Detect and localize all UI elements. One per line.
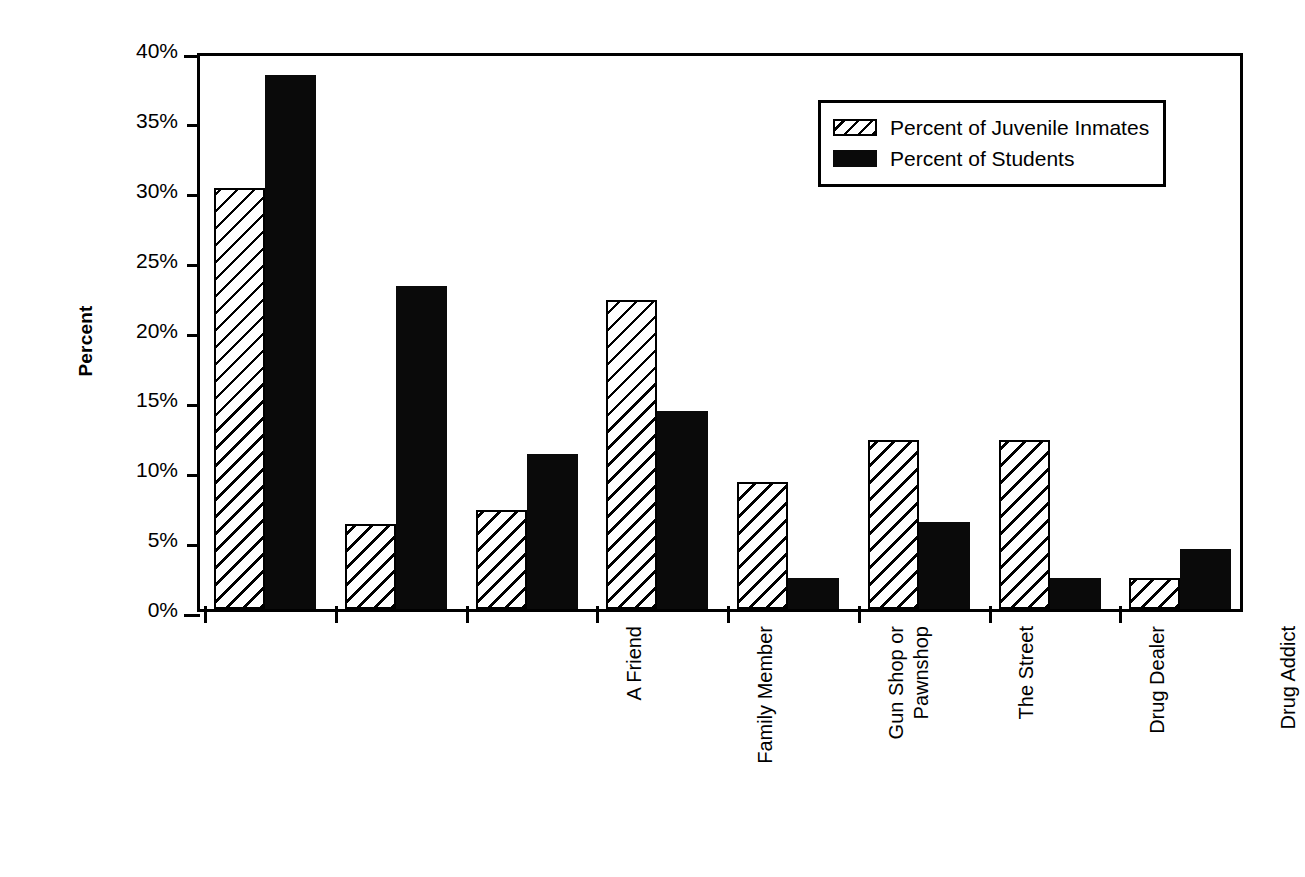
y-axis-tick xyxy=(187,194,200,197)
y-axis-tick xyxy=(184,55,200,58)
bar-inmates xyxy=(214,188,265,609)
y-axis-tick-label: 5% xyxy=(60,528,178,552)
x-axis-category-label: Gun Shop or Pawnshop xyxy=(884,626,934,866)
x-axis-tick xyxy=(727,606,730,623)
y-axis-tick xyxy=(187,124,200,127)
y-axis-tick-label: 20% xyxy=(60,319,178,343)
x-axis-tick xyxy=(466,606,469,623)
bar-inmates xyxy=(868,440,919,609)
y-axis-tick xyxy=(187,264,200,267)
x-axis-tick xyxy=(1119,606,1122,623)
bar-inmates xyxy=(1129,578,1180,609)
x-axis-tick xyxy=(335,606,338,623)
legend-label: Percent of Students xyxy=(890,147,1074,171)
x-axis-category-label: Family Member xyxy=(753,626,778,866)
legend-label: Percent of Juvenile Inmates xyxy=(890,116,1149,140)
bar-inmates xyxy=(345,524,396,609)
bar-students xyxy=(657,411,708,609)
y-axis-tick-label: 40% xyxy=(60,39,178,63)
chart-figure: Percent 0%5%10%15%20%25%30%35%40% A Frie… xyxy=(0,0,1305,877)
y-axis-tick-label: 15% xyxy=(60,388,178,412)
x-axis-tick xyxy=(204,606,207,623)
x-axis-category-label: The Street xyxy=(1014,626,1039,866)
x-axis-category-label: Drug Addict xyxy=(1276,626,1301,866)
y-axis-tick xyxy=(187,404,200,407)
x-axis-category-label: Drug Dealer xyxy=(1145,626,1170,866)
legend-swatch-solid-icon xyxy=(833,150,877,167)
y-axis-tick xyxy=(187,334,200,337)
y-axis-tick-label: 0% xyxy=(60,598,178,622)
bar-inmates xyxy=(737,482,788,609)
bar-students xyxy=(527,454,578,609)
bar-inmates xyxy=(999,440,1050,609)
bar-inmates xyxy=(606,300,657,609)
y-axis-tick-label: 25% xyxy=(60,249,178,273)
y-axis-tick xyxy=(187,474,200,477)
bar-students xyxy=(1180,549,1231,609)
legend-item-students: Percent of Students xyxy=(833,143,1149,174)
x-axis-tick xyxy=(989,606,992,623)
bar-students xyxy=(265,75,316,609)
x-axis-category-label: A Friend xyxy=(622,626,647,866)
y-axis-tick-label: 30% xyxy=(60,179,178,203)
chart-legend: Percent of Juvenile Inmates Percent of S… xyxy=(818,100,1166,187)
bar-students xyxy=(396,286,447,609)
y-axis-tick-label: 35% xyxy=(60,109,178,133)
y-axis-tick-label: 10% xyxy=(60,458,178,482)
bar-inmates xyxy=(476,510,527,609)
bar-students xyxy=(1050,578,1101,609)
legend-swatch-hatched-icon xyxy=(833,119,877,136)
y-axis-tick xyxy=(184,614,200,617)
bar-students xyxy=(919,522,970,609)
x-axis-tick xyxy=(858,606,861,623)
bar-students xyxy=(788,578,839,609)
legend-item-juvenile-inmates: Percent of Juvenile Inmates xyxy=(833,112,1149,143)
y-axis-tick xyxy=(187,544,200,547)
x-axis-tick xyxy=(596,606,599,623)
